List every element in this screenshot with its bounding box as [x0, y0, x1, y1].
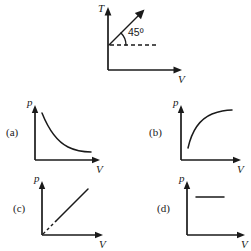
- panel-a-curve: [42, 113, 91, 152]
- option-panel-c: p V (c): [13, 172, 107, 250]
- angle-arc: [121, 33, 126, 45]
- top-y-axis-arrowhead: [105, 7, 112, 16]
- panel-d-y-axis-arrowhead: [184, 181, 190, 189]
- option-panel-a: p V (a): [6, 96, 104, 175]
- panel-a-x-axis-label: V: [96, 163, 104, 175]
- physics-figure: T V 45º p V (a) p V (b): [0, 0, 251, 251]
- panel-d-y-axis-label: p: [178, 172, 185, 184]
- panel-d-label: (d): [157, 202, 170, 215]
- panel-b-label: (b): [149, 126, 162, 139]
- figure-canvas: T V 45º p V (a) p V (b): [0, 0, 251, 251]
- panel-b-y-axis-arrowhead: [178, 105, 184, 113]
- option-panel-b: p V (b): [149, 96, 245, 175]
- panel-c-x-axis-label: V: [99, 238, 107, 250]
- panel-c-dashed-segment: [43, 221, 56, 234]
- option-panel-d: p V (d): [157, 172, 249, 250]
- panel-c-label: (c): [13, 202, 26, 215]
- angle-label: 45º: [128, 26, 144, 38]
- panel-b-x-axis-label: V: [237, 163, 245, 175]
- panel-c-y-axis-label: p: [33, 172, 40, 184]
- panel-b-curve: [188, 110, 232, 148]
- panel-a-y-axis-label: p: [26, 96, 33, 108]
- panel-c-solid-segment: [56, 189, 88, 221]
- top-x-axis-label: V: [178, 73, 186, 85]
- panel-d-x-axis-label: V: [241, 238, 249, 250]
- temperature-volume-diagram: T V 45º: [98, 2, 186, 85]
- panel-a-label: (a): [6, 126, 19, 139]
- top-y-axis-label: T: [98, 2, 105, 14]
- panel-c-y-axis-arrowhead: [39, 181, 45, 189]
- panel-a-y-axis-arrowhead: [32, 105, 38, 113]
- panel-b-y-axis-label: p: [172, 96, 179, 108]
